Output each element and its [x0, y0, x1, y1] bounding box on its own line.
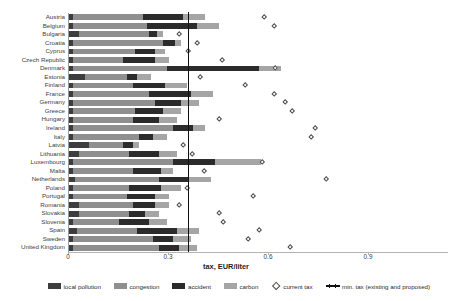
table-row: Finland	[69, 81, 449, 90]
bar-segment-accident	[119, 219, 149, 225]
category-label-united-kingdom: United Kingdom	[21, 242, 65, 251]
legend-label-min-tax: min. tax (existing and proposed)	[342, 283, 430, 290]
bar-segment-carbon	[137, 74, 151, 80]
bar-segment-accident	[137, 228, 177, 234]
bar-segment-accident	[133, 168, 161, 174]
legend-swatch-congestion	[114, 283, 127, 288]
current-tax-marker	[180, 142, 186, 148]
min-tax-tick	[188, 243, 190, 253]
current-tax-marker	[257, 227, 263, 233]
bar-segment-accident	[129, 211, 145, 217]
current-tax-marker	[323, 176, 329, 182]
bar-segment-accident	[135, 49, 155, 55]
bar-segment-congestion	[73, 117, 133, 123]
bar-segment-accident	[149, 91, 191, 97]
bar-segment-accident	[123, 57, 155, 63]
bar-segment-accident	[129, 185, 161, 191]
table-row: Spain	[69, 226, 449, 235]
bar-segment-carbon	[193, 125, 205, 131]
legend-item-current-tax: current tax	[271, 283, 312, 290]
table-row: Belgium	[69, 22, 449, 31]
current-tax-marker	[197, 74, 203, 80]
bar-segment-congestion	[73, 23, 147, 29]
bar-segment-local-pollution	[69, 228, 77, 234]
bar-segment-congestion	[73, 219, 119, 225]
bar-segment-congestion	[85, 74, 127, 80]
x-tick-label: 0	[66, 253, 70, 260]
chart-container: AustriaBelgiumBulgariaCroatiaCyprusCzech…	[0, 0, 452, 301]
bar-segment-congestion	[73, 125, 173, 131]
bar-segment-congestion	[89, 142, 123, 148]
current-tax-marker	[262, 14, 268, 20]
table-row: Hungary	[69, 115, 449, 124]
current-tax-marker	[201, 168, 207, 174]
bar-segment-congestion	[73, 91, 149, 97]
bar-segment-congestion	[79, 211, 129, 217]
current-tax-marker	[220, 219, 226, 225]
legend-item-congestion: congestion	[114, 283, 159, 290]
legend-label-accident: accident	[188, 283, 211, 290]
bar-segment-congestion	[73, 40, 163, 46]
bar-segment-congestion	[73, 100, 155, 106]
x-tick-label: 0.6	[264, 253, 273, 260]
bar-segment-accident	[143, 14, 183, 20]
bar-segment-congestion	[73, 159, 173, 165]
bar-segment-carbon	[191, 91, 213, 97]
legend-item-local-pollution: local pollution	[48, 283, 101, 290]
bar-segment-carbon	[157, 31, 163, 37]
bar-segment-accident	[133, 83, 165, 89]
table-row: Slovenia	[69, 218, 449, 227]
current-tax-marker	[289, 108, 295, 114]
current-tax-marker	[283, 99, 289, 105]
bar-segment-accident	[133, 117, 159, 123]
bar-segment-accident	[167, 66, 259, 72]
bar-segment-congestion	[73, 134, 139, 140]
bar-segment-congestion	[73, 108, 135, 114]
bar-segment-carbon	[159, 117, 177, 123]
bar-segment-carbon	[155, 57, 169, 63]
bar-segment-carbon	[153, 134, 167, 140]
current-tax-marker	[176, 31, 182, 37]
legend-item-carbon: carbon	[224, 283, 258, 290]
table-row: Denmark	[69, 64, 449, 73]
bar-segment-congestion	[73, 66, 167, 72]
table-row: Bulgaria	[69, 30, 449, 39]
current-tax-marker	[176, 202, 182, 208]
step-line-icon	[326, 285, 340, 287]
bar-segment-accident	[133, 202, 155, 208]
bar-segment-congestion	[73, 236, 153, 242]
bar-segment-congestion	[73, 49, 135, 55]
bar-segment-accident	[139, 134, 153, 140]
bar-segment-carbon	[155, 194, 169, 200]
current-tax-marker	[216, 210, 222, 216]
table-row: United Kingdom	[69, 243, 449, 252]
legend-swatch-carbon	[224, 283, 237, 288]
bar-segment-carbon	[175, 40, 181, 46]
bar-segment-accident	[173, 125, 193, 131]
bar-segment-accident	[159, 177, 189, 183]
bar-segment-congestion	[73, 245, 159, 251]
legend-swatch-local-pollution	[48, 283, 61, 288]
table-row: Luxembourg	[69, 158, 449, 167]
bar-segment-local-pollution	[69, 202, 79, 208]
bar-segment-accident	[135, 108, 163, 114]
bar-segment-congestion	[79, 202, 133, 208]
bar-segment-carbon	[189, 177, 211, 183]
bar-segment-congestion	[79, 31, 149, 37]
bar-segment-carbon	[161, 168, 173, 174]
bar-segment-carbon	[155, 202, 169, 208]
table-row: Portugal	[69, 192, 449, 201]
legend-label-local-pollution: local pollution	[64, 283, 102, 290]
bar-segment-congestion	[73, 185, 129, 191]
table-row: Sweden	[69, 235, 449, 244]
legend-item-min-tax: min. tax (existing and proposed)	[326, 283, 431, 290]
bar-segment-carbon	[133, 142, 139, 148]
legend-label-carbon: carbon	[239, 283, 258, 290]
bar-segment-accident	[147, 23, 197, 29]
current-tax-marker	[288, 245, 294, 251]
bar-segment-carbon	[149, 219, 167, 225]
chart-legend: local pollution congestion accident carb…	[48, 279, 448, 293]
current-tax-marker	[219, 57, 225, 63]
bar-segment-accident	[163, 40, 175, 46]
current-tax-marker	[250, 193, 256, 199]
